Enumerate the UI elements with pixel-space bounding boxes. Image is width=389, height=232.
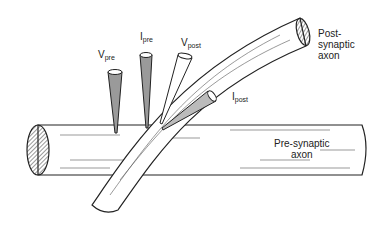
label-presynaptic-axon: Pre-synaptic axon [274, 138, 330, 160]
v-pre-electrode [108, 70, 122, 134]
postsynaptic-axon [92, 17, 312, 212]
label-i-pre: Ipre [140, 31, 153, 45]
label-postsynaptic-axon: Post- synaptic axon [318, 28, 355, 61]
label-v-pre: Vpre [98, 49, 115, 63]
label-v-post: Vpost [181, 37, 201, 51]
label-i-post: Ipost [232, 91, 248, 105]
i-pre-electrode [140, 53, 152, 129]
